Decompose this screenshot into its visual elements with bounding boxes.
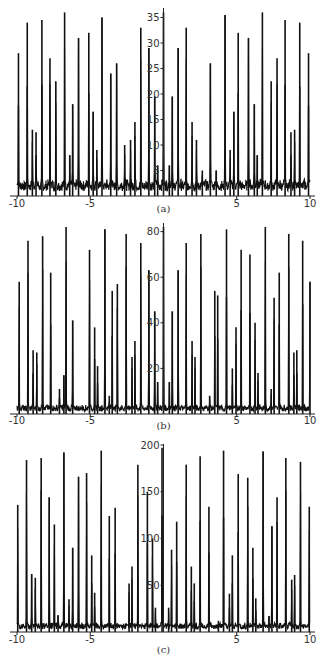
y-tick-label: 30 xyxy=(147,38,160,49)
y-tick-label: 15 xyxy=(147,114,160,125)
y-tick-label: 5 xyxy=(153,165,159,176)
y-tick-label: 35 xyxy=(147,12,160,23)
y-tick-label: 25 xyxy=(147,63,160,74)
x-tick-label: 5 xyxy=(234,198,240,209)
x-tick-label: 10 xyxy=(304,198,317,209)
chart-panel-b: -10-551020406080(b) xyxy=(0,215,322,430)
panel-caption: (b) xyxy=(156,420,170,430)
y-tick-label: 150 xyxy=(140,486,159,497)
y-tick-label: 100 xyxy=(140,533,159,544)
x-tick-label: 5 xyxy=(234,415,240,426)
y-tick-label: 20 xyxy=(147,89,160,100)
chart-panel-c: -10-551050100150200(c) xyxy=(0,430,322,659)
x-tick-label: 10 xyxy=(304,415,317,426)
chart-a-plot: -10-55105101520253035(a) xyxy=(0,0,322,215)
x-tick-label: 5 xyxy=(234,634,240,645)
x-tick-label: -10 xyxy=(9,634,25,645)
chart-c-plot: -10-551050100150200(c) xyxy=(0,430,322,659)
y-tick-label: 20 xyxy=(147,363,160,374)
x-tick-label: -5 xyxy=(85,198,95,209)
y-tick-label: 80 xyxy=(147,226,160,237)
y-tick-label: 50 xyxy=(147,580,160,591)
y-tick-label: 60 xyxy=(147,272,160,283)
x-tick-label: -5 xyxy=(85,415,95,426)
panel-caption: (a) xyxy=(157,203,171,214)
y-tick-label: 200 xyxy=(140,440,159,451)
x-tick-label: -10 xyxy=(9,198,25,209)
panel-caption: (c) xyxy=(157,644,171,655)
y-tick-label: 10 xyxy=(147,140,160,151)
x-tick-label: -5 xyxy=(85,634,95,645)
y-tick-label: 40 xyxy=(147,317,160,328)
chart-b-plot: -10-551020406080(b) xyxy=(0,215,322,430)
chart-panel-a: -10-55105101520253035(a) xyxy=(0,0,322,215)
x-tick-label: 10 xyxy=(304,634,317,645)
x-tick-label: -10 xyxy=(9,415,25,426)
